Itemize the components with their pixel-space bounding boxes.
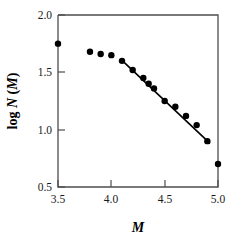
data-points [55, 40, 221, 167]
x-tick-label-1: 4.0 [104, 193, 119, 205]
plot-frame [58, 15, 218, 187]
data-point [215, 161, 221, 167]
y-axis-title-log: log [5, 108, 20, 129]
y-tick-labels: 2.0 1.5 1.0 0.5 [38, 9, 53, 193]
data-point [151, 85, 157, 91]
y-axis-title-m: M [5, 77, 20, 91]
data-point [172, 104, 178, 110]
y-tick-label-1: 1.5 [38, 66, 53, 78]
x-axis-title: M [131, 220, 145, 235]
data-point [161, 98, 167, 104]
y-tick-label-0: 2.0 [38, 9, 53, 21]
scatter-plot: 2.0 1.5 1.0 0.5 3.5 4.0 4.5 5.0 M log N … [0, 0, 245, 242]
data-point [140, 75, 146, 81]
data-point [55, 40, 61, 46]
data-point [129, 67, 135, 73]
data-point [204, 138, 210, 144]
data-point [119, 58, 125, 64]
data-point [183, 113, 189, 119]
frame-rect [58, 15, 218, 187]
x-tick-labels: 3.5 4.0 4.5 5.0 [51, 193, 226, 205]
y-axis-title-close-paren: ) [5, 72, 21, 77]
data-point [97, 51, 103, 57]
y-tick-label-3: 0.5 [38, 181, 53, 193]
figure-container: 2.0 1.5 1.0 0.5 3.5 4.0 4.5 5.0 M log N … [0, 0, 245, 242]
data-point [108, 52, 114, 58]
x-axis-ticks [58, 180, 218, 187]
data-point [87, 48, 93, 54]
y-tick-label-2: 1.0 [38, 124, 53, 136]
x-tick-label-3: 5.0 [211, 193, 226, 205]
y-axis-title: log N (M) [5, 72, 21, 129]
data-point [193, 122, 199, 128]
x-tick-label-0: 3.5 [51, 193, 66, 205]
svg-text:log N (M): log N (M) [5, 72, 21, 129]
data-point [145, 81, 151, 87]
x-tick-label-2: 4.5 [158, 193, 173, 205]
